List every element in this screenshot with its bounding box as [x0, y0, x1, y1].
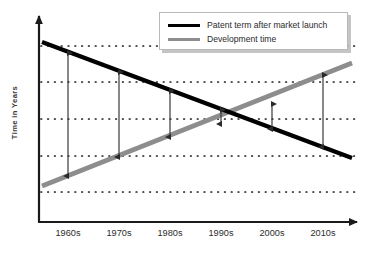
chart-container: Time in Years 1960s 1970s 1980s 1990s 20… — [0, 0, 380, 259]
x-tick-label-1980s: 1980s — [157, 228, 182, 238]
x-tick-label-1960s: 1960s — [55, 228, 80, 238]
x-tick-label-1990s: 1990s — [208, 228, 233, 238]
chart-legend: Patent term after market launch Developm… — [159, 12, 348, 50]
gap-arrows — [68, 53, 323, 176]
legend-swatch-development-time-icon — [168, 38, 200, 41]
legend-swatch-patent-term-icon — [168, 24, 200, 27]
x-tick-label-2010s: 2010s — [310, 228, 335, 238]
legend-item-patent-term: Patent term after market launch — [160, 18, 347, 32]
series-line-patent-term — [42, 42, 352, 158]
y-axis-title: Time in Years — [10, 68, 19, 158]
legend-label-development-time: Development time — [207, 35, 276, 44]
legend-item-development-time: Development time — [160, 32, 347, 46]
legend-label-patent-term: Patent term after market launch — [207, 21, 327, 30]
x-tick-label-1970s: 1970s — [106, 228, 131, 238]
x-tick-label-2000s: 2000s — [259, 228, 284, 238]
